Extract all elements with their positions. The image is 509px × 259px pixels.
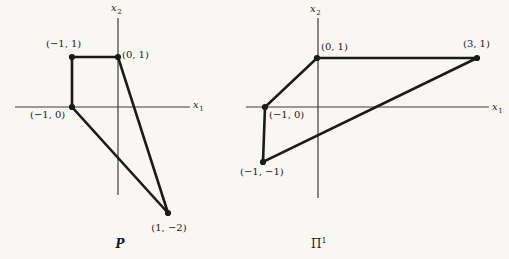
vertex-dot [262, 104, 268, 110]
vertex-dot [260, 159, 266, 165]
y-axis-label: x2 [310, 3, 321, 17]
vertex-dot [165, 210, 171, 216]
vertex-dot [69, 54, 75, 60]
vertex-label: (0, 1) [122, 49, 149, 60]
vertex-label: (−1, −1) [240, 166, 284, 177]
x-axis-label: x1 [492, 101, 503, 115]
y-axis-label: x2 [111, 2, 122, 16]
x-axis-label: x1 [193, 99, 204, 113]
figure-two-polytopes: x1x2(−1, 1)(0, 1)(1, −2)(−1, 0)Px1x2(0, … [0, 0, 509, 259]
vertex-dot [474, 55, 480, 61]
figure-canvas: x1x2(−1, 1)(0, 1)(1, −2)(−1, 0)Px1x2(0, … [0, 0, 509, 259]
vertex-label: (1, −2) [151, 222, 186, 233]
caption-Pi1: Π1 [311, 236, 327, 251]
vertex-dot [314, 55, 320, 61]
diagram-Pi1: x1x2(0, 1)(3, 1)(−1, −1)(−1, 0)Π1 [240, 3, 503, 251]
vertex-dot [115, 54, 121, 60]
vertex-label: (−1, 0) [269, 109, 304, 120]
caption-P: P [114, 237, 125, 251]
vertex-label: (−1, 1) [46, 38, 81, 49]
vertex-label: (−1, 0) [30, 109, 65, 120]
vertex-dot [69, 104, 75, 110]
vertex-label: (0, 1) [321, 41, 348, 52]
vertex-label: (3, 1) [463, 38, 490, 49]
polytope-P [72, 57, 168, 213]
diagram-P: x1x2(−1, 1)(0, 1)(1, −2)(−1, 0)P [15, 2, 204, 251]
